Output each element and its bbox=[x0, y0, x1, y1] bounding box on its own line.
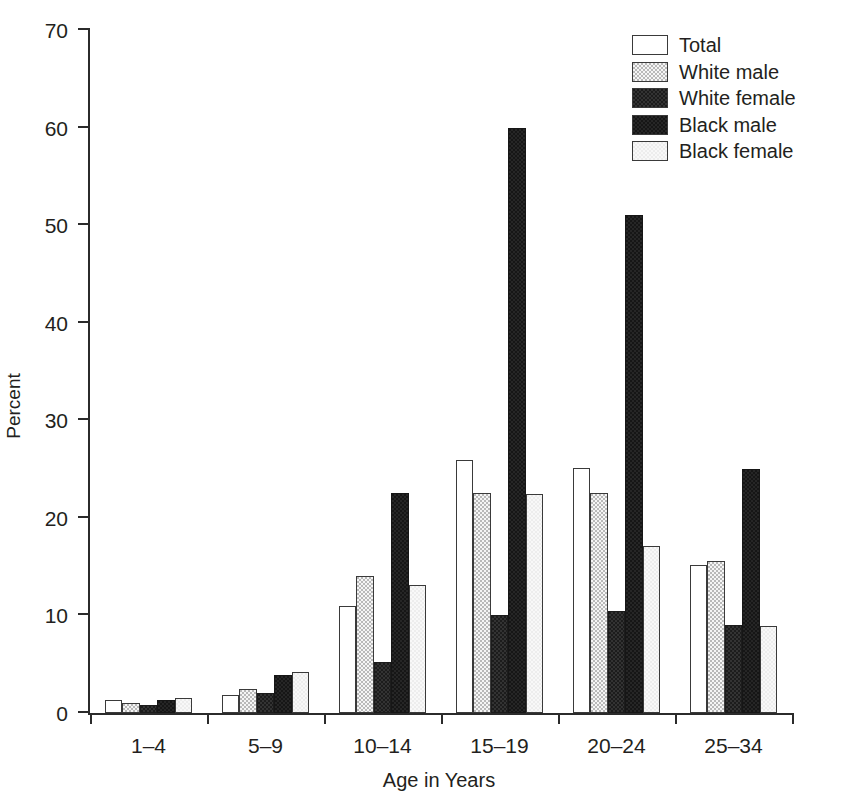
swatch-white-female-icon bbox=[632, 88, 668, 108]
bar-group-bars bbox=[339, 30, 426, 713]
chart-legend: TotalWhite maleWhite femaleBlack maleBla… bbox=[632, 33, 796, 166]
swatch-black-female-icon bbox=[632, 141, 668, 161]
bar-black-female[interactable] bbox=[760, 626, 777, 713]
y-axis-tick: 30 bbox=[78, 418, 90, 420]
bar-group-bars bbox=[222, 30, 309, 713]
legend-item-label: Black male bbox=[679, 115, 777, 135]
bar-white-female[interactable] bbox=[140, 705, 157, 713]
legend-item-black-female[interactable]: Black female bbox=[632, 139, 796, 163]
bar-group-bars bbox=[105, 30, 192, 713]
bar-total[interactable] bbox=[105, 700, 122, 713]
bar-white-female[interactable] bbox=[257, 693, 274, 713]
bar-black-female[interactable] bbox=[175, 698, 192, 713]
y-axis-tick: 0 bbox=[78, 711, 90, 713]
y-axis-tick-label: 20 bbox=[45, 507, 68, 528]
legend-item-label: White male bbox=[679, 62, 779, 82]
y-axis-tick: 70 bbox=[78, 28, 90, 30]
bar-group: 1–4 bbox=[105, 30, 192, 713]
bar-white-male[interactable] bbox=[356, 576, 373, 713]
y-axis-tick: 20 bbox=[78, 516, 90, 518]
y-axis-tick: 10 bbox=[78, 613, 90, 615]
x-axis-tick bbox=[207, 713, 209, 724]
x-axis-tick bbox=[324, 713, 326, 724]
bar-total[interactable] bbox=[339, 606, 356, 713]
legend-item-black-male[interactable]: Black male bbox=[632, 113, 796, 137]
y-axis-tick-label: 50 bbox=[45, 215, 68, 236]
swatch-total-icon bbox=[632, 35, 668, 55]
x-axis-tick bbox=[441, 713, 443, 724]
bar-group-bars bbox=[456, 30, 543, 713]
bar-black-male[interactable] bbox=[157, 700, 174, 713]
legend-item-total[interactable]: Total bbox=[632, 33, 796, 57]
y-axis-title: Percent bbox=[3, 373, 25, 438]
y-axis-tick: 40 bbox=[78, 321, 90, 323]
bar-total[interactable] bbox=[456, 460, 473, 713]
bar-group: 15–19 bbox=[456, 30, 543, 713]
bar-white-female[interactable] bbox=[725, 625, 742, 713]
bar-white-male[interactable] bbox=[122, 703, 139, 713]
x-axis-tick bbox=[792, 713, 794, 724]
bar-total[interactable] bbox=[573, 468, 590, 713]
y-axis-tick-label: 70 bbox=[45, 20, 68, 41]
legend-item-label: White female bbox=[679, 88, 796, 108]
legend-item-label: Total bbox=[679, 35, 721, 55]
bar-black-male[interactable] bbox=[742, 469, 759, 713]
bar-total[interactable] bbox=[222, 695, 239, 713]
y-axis-tick: 50 bbox=[78, 223, 90, 225]
y-axis-tick-label: 10 bbox=[45, 605, 68, 626]
x-axis-tick-label: 10–14 bbox=[353, 734, 411, 758]
bar-chart: Percent 010203040506070 1–45–910–1415–19… bbox=[0, 0, 844, 811]
legend-item-label: Black female bbox=[679, 141, 794, 161]
bar-black-male[interactable] bbox=[508, 128, 525, 713]
legend-item-white-female[interactable]: White female bbox=[632, 86, 796, 110]
y-axis-tick: 60 bbox=[78, 126, 90, 128]
x-axis-tick bbox=[90, 713, 92, 724]
bar-black-male[interactable] bbox=[391, 493, 408, 713]
x-axis-tick-label: 1–4 bbox=[131, 734, 166, 758]
y-axis-tick-label: 60 bbox=[45, 117, 68, 138]
swatch-black-male-icon bbox=[632, 115, 668, 135]
bar-white-male[interactable] bbox=[239, 689, 256, 713]
y-axis-tick-label: 40 bbox=[45, 312, 68, 333]
x-axis-title: Age in Years bbox=[88, 769, 790, 792]
x-axis-tick-label: 20–24 bbox=[587, 734, 645, 758]
swatch-white-male-icon bbox=[632, 62, 668, 82]
x-axis-tick-label: 25–34 bbox=[704, 734, 762, 758]
bar-black-female[interactable] bbox=[526, 494, 543, 713]
bar-black-male[interactable] bbox=[274, 675, 291, 713]
y-axis-tick-label: 0 bbox=[56, 703, 68, 724]
legend-item-white-male[interactable]: White male bbox=[632, 60, 796, 84]
bar-white-female[interactable] bbox=[608, 611, 625, 713]
bar-black-female[interactable] bbox=[292, 672, 309, 713]
bar-white-female[interactable] bbox=[374, 662, 391, 713]
x-axis-tick-label: 15–19 bbox=[470, 734, 528, 758]
x-axis-tick bbox=[558, 713, 560, 724]
bar-black-female[interactable] bbox=[409, 585, 426, 713]
bar-white-male[interactable] bbox=[590, 493, 607, 713]
bar-black-male[interactable] bbox=[625, 215, 642, 713]
y-axis-tick-label: 30 bbox=[45, 410, 68, 431]
bar-total[interactable] bbox=[690, 565, 707, 713]
bar-black-female[interactable] bbox=[643, 546, 660, 713]
bar-white-female[interactable] bbox=[491, 615, 508, 713]
bar-group: 10–14 bbox=[339, 30, 426, 713]
bar-group: 5–9 bbox=[222, 30, 309, 713]
x-axis-tick bbox=[675, 713, 677, 724]
bar-white-male[interactable] bbox=[473, 493, 490, 713]
x-axis-tick-label: 5–9 bbox=[248, 734, 283, 758]
bar-white-male[interactable] bbox=[707, 561, 724, 713]
